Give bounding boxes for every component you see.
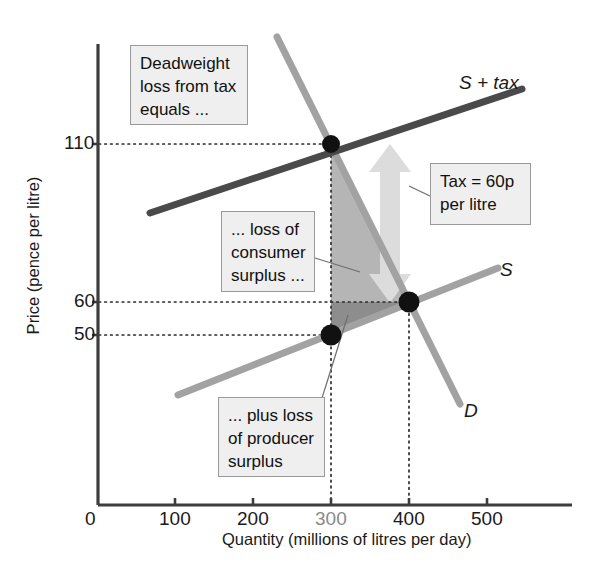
chart-canvas: 110 60 50 0 100 200 300 400 500 Price (p… <box>0 0 601 580</box>
tax-double-arrow <box>369 144 411 303</box>
x-tick-label-400: 400 <box>393 508 425 530</box>
callout-producer-line-3: surplus <box>228 451 315 474</box>
marker-no-tax-equilibrium <box>399 292 420 313</box>
y-tick-label-60: 60 <box>74 290 95 312</box>
callout-deadweight-loss: Deadweight loss from tax equals ... <box>130 45 248 125</box>
callout-tax-line-2: per litre <box>440 194 521 217</box>
callout-consumer-line-2: consumer <box>231 242 305 265</box>
x-tick-label-100: 100 <box>159 508 191 530</box>
callout-producer-line-1: ... plus loss <box>228 405 315 428</box>
curve-label-supply: S <box>500 259 513 281</box>
x-axis-title: Quantity (millions of litres per day) <box>222 530 471 549</box>
x-tick-label-300: 300 <box>315 508 347 530</box>
x-tick-label-0: 0 <box>85 508 96 530</box>
x-tick-label-500: 500 <box>471 508 503 530</box>
callout-consumer-line-1: ... loss of <box>231 219 305 242</box>
curve-label-demand: D <box>464 400 478 422</box>
callout-deadweight-line-2: loss from tax <box>140 76 238 99</box>
callout-consumer-line-3: surplus ... <box>231 265 305 288</box>
callout-producer-surplus-loss: ... plus loss of producer surplus <box>218 397 325 477</box>
leader-tax <box>409 186 430 196</box>
callout-tax-amount: Tax = 60p per litre <box>430 163 531 225</box>
callout-deadweight-line-1: Deadweight <box>140 53 238 76</box>
marker-seller-price <box>321 325 342 346</box>
callout-tax-line-1: Tax = 60p <box>440 171 521 194</box>
callout-producer-line-2: of producer <box>228 428 315 451</box>
y-tick-label-50: 50 <box>74 323 95 345</box>
x-tick-label-200: 200 <box>237 508 269 530</box>
callout-deadweight-line-3: equals ... <box>140 99 238 122</box>
callout-consumer-surplus-loss: ... loss of consumer surplus ... <box>221 211 315 292</box>
y-axis-title: Price (pence per litre) <box>24 151 43 361</box>
marker-with-tax-equilibrium <box>322 135 340 153</box>
y-tick-label-110: 110 <box>64 132 94 154</box>
curve-label-supply-plus-tax: S + tax <box>459 72 519 94</box>
